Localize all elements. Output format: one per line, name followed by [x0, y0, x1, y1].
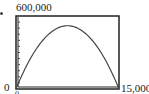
plot-frame [16, 16, 119, 89]
data-curve [16, 26, 119, 89]
plot-area [0, 0, 149, 94]
